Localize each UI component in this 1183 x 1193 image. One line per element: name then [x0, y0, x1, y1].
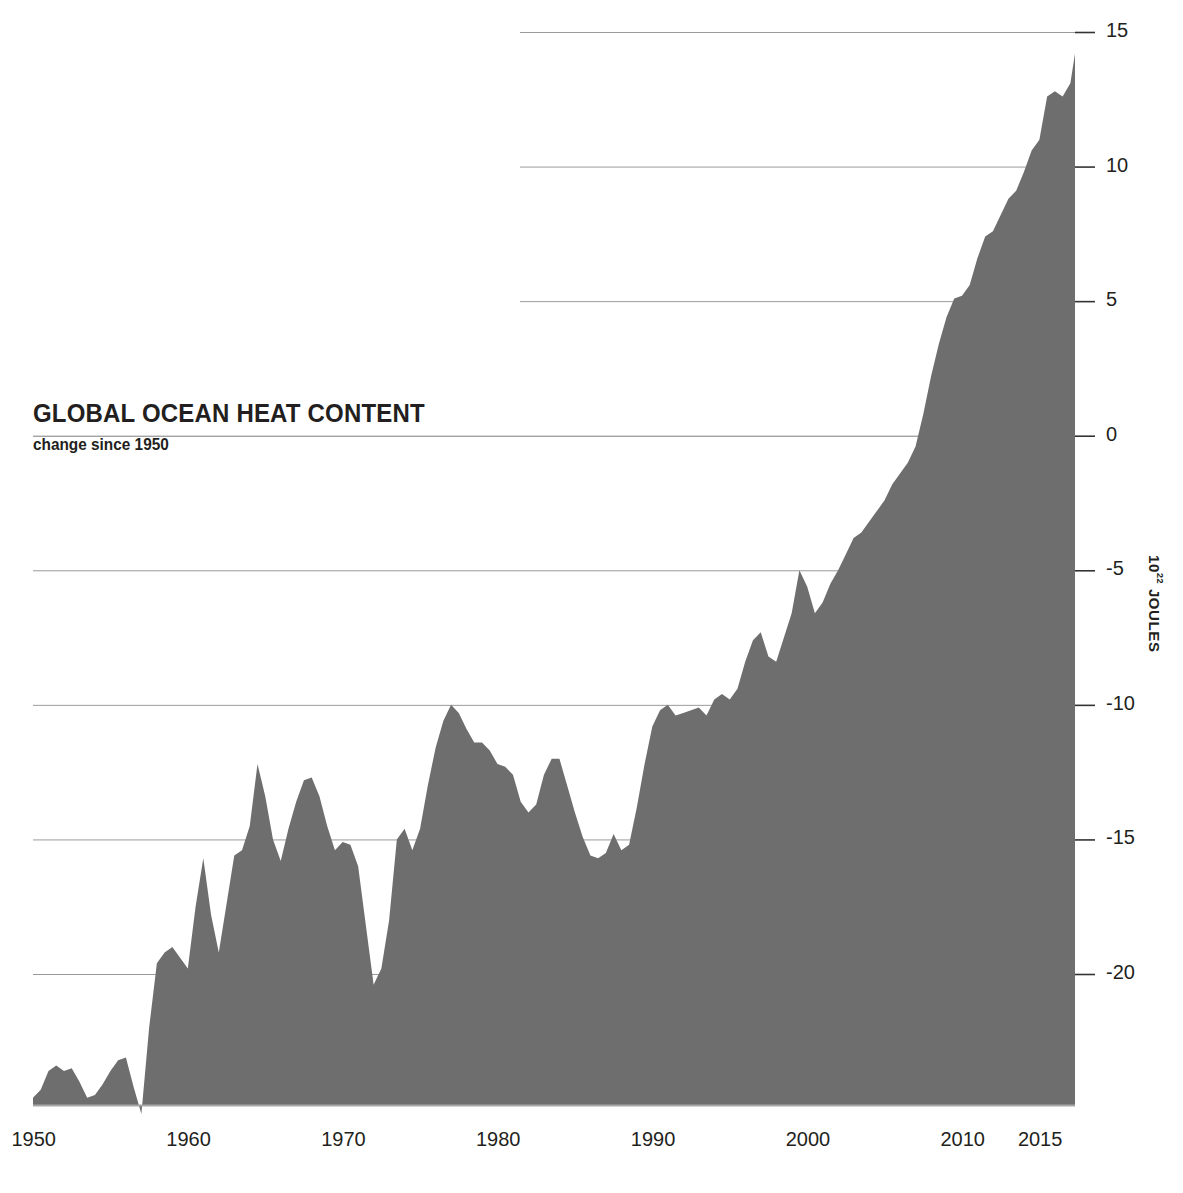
- x-axis-tick-label-1950: 1950: [12, 1128, 57, 1151]
- x-axis-tick-label-1990: 1990: [631, 1128, 676, 1151]
- y-axis-label-exponent: 22: [1155, 573, 1165, 584]
- y-axis-label-unit: JOULES: [1146, 584, 1163, 652]
- y-axis-label-base: 10: [1146, 555, 1163, 573]
- y-axis-tick-marks: [1075, 33, 1095, 975]
- x-axis-tick-label-2000: 2000: [786, 1128, 831, 1151]
- area-series-ocean-heat: [33, 54, 1075, 1114]
- x-axis-tick-label-1970: 1970: [321, 1128, 366, 1151]
- y-axis-tick-label-5: 5: [1106, 288, 1117, 311]
- y-axis-tick-label--15: -15: [1106, 826, 1135, 849]
- x-axis-tick-label-1980: 1980: [476, 1128, 521, 1151]
- y-axis-tick-label--5: -5: [1106, 557, 1124, 580]
- x-axis-tick-label-2010: 2010: [940, 1128, 985, 1151]
- chart-subtitle: change since 1950: [33, 436, 425, 454]
- chart-figure: GLOBAL OCEAN HEAT CONTENT change since 1…: [0, 0, 1183, 1193]
- x-axis-tick-label-1960: 1960: [166, 1128, 211, 1151]
- y-axis-label: 1022 JOULES: [1146, 555, 1165, 653]
- ocean-heat-area-chart: [0, 0, 1183, 1193]
- x-axis-tick-label-2015: 2015: [1018, 1128, 1063, 1151]
- page-title: GLOBAL OCEAN HEAT CONTENT: [33, 400, 425, 426]
- y-axis-tick-label-10: 10: [1106, 154, 1128, 177]
- y-axis-tick-label-0: 0: [1106, 423, 1117, 446]
- y-axis-tick-label--10: -10: [1106, 692, 1135, 715]
- y-axis-tick-label-15: 15: [1106, 19, 1128, 42]
- y-axis-tick-label--20: -20: [1106, 961, 1135, 984]
- chart-title-block: GLOBAL OCEAN HEAT CONTENT change since 1…: [33, 400, 441, 454]
